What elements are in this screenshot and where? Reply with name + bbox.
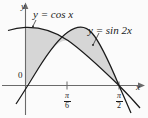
leader-line-cos-label: [33, 20, 36, 26]
x-tick-label-pi-over-2: π 2: [112, 92, 126, 111]
area-between-curves-figure: y x 0 y = cos x y = sin 2x π 6 π 2: [0, 0, 148, 118]
pi-over-2-denominator: 2: [112, 102, 126, 110]
pi-over-2-numerator: π: [112, 92, 126, 100]
leader-dot-cos: [32, 26, 34, 28]
cosine-curve-label: y = cos x: [33, 9, 73, 20]
y-axis-label: y: [21, 2, 25, 11]
origin-label: 0: [18, 71, 23, 80]
pi-over-6-denominator: 6: [60, 102, 74, 110]
pi-over-6-numerator: π: [60, 92, 74, 100]
leader-dot-sin: [92, 44, 94, 46]
x-axis-label: x: [136, 83, 140, 92]
sine-2x-curve-label: y = sin 2x: [88, 25, 132, 36]
x-tick-label-pi-over-6: π 6: [60, 92, 74, 111]
